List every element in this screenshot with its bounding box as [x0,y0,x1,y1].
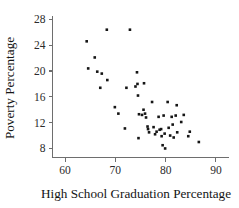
y-tick-label: 24 [34,39,46,51]
y-axis-ticks: 81216202428 [34,13,53,154]
data-point [198,141,201,144]
data-point [151,101,154,104]
data-point [182,114,185,117]
data-point [136,71,139,74]
data-point [100,72,103,75]
data-point [144,112,147,115]
x-tick-label: 90 [210,164,222,176]
data-point [174,114,177,117]
data-point [161,144,164,147]
x-tick-label: 70 [110,164,122,176]
data-point [145,116,148,119]
data-point [87,67,90,70]
data-point [160,135,163,138]
data-point [137,137,140,140]
data-point [142,108,145,111]
data-point [164,147,167,150]
data-point [99,86,102,89]
data-point [146,125,149,128]
data-point [96,70,99,73]
data-point [137,94,140,97]
data-point [154,133,157,136]
data-point [180,121,183,124]
y-tick-label: 28 [34,13,46,25]
data-point [152,126,155,129]
data-point [171,123,174,126]
data-point [143,82,146,85]
data-point [162,114,165,117]
data-point [129,28,132,31]
data-point [141,114,144,117]
data-point [157,116,160,119]
data-point [117,112,120,115]
y-tick-label: 12 [34,117,46,129]
data-point [136,83,139,86]
data-point [148,131,151,134]
data-point [167,127,170,130]
data-point [163,132,166,135]
data-point [125,86,128,89]
data-point [176,131,179,134]
y-axis-title: Poverty Percentage [2,37,17,139]
x-axis-ticks: 60708090 [59,158,222,176]
data-points [85,28,200,149]
data-point [160,128,163,131]
y-tick-label: 16 [34,91,46,103]
data-point [187,135,190,138]
data-point [138,113,141,116]
data-point [106,79,109,82]
data-point [114,106,117,109]
data-point [169,134,172,137]
data-point [85,40,88,43]
data-point [155,130,158,133]
data-point [188,130,191,133]
x-tick-label: 80 [160,164,172,176]
data-point [172,136,175,139]
x-axis-title: High School Graduation Percentage [41,186,231,201]
data-point [106,28,109,31]
data-point [175,104,178,107]
plot-canvas: 81216202428 60708090 Poverty Percentage … [0,0,239,208]
y-tick-label: 8 [40,142,46,154]
data-point [170,116,173,119]
scatter-plot-figure: 81216202428 60708090 Poverty Percentage … [0,0,239,208]
data-point [124,127,127,130]
data-point [166,101,169,104]
y-tick-label: 20 [34,65,46,77]
data-point [93,56,96,59]
data-point [147,128,150,131]
data-point [134,85,137,88]
x-tick-label: 60 [59,164,71,176]
